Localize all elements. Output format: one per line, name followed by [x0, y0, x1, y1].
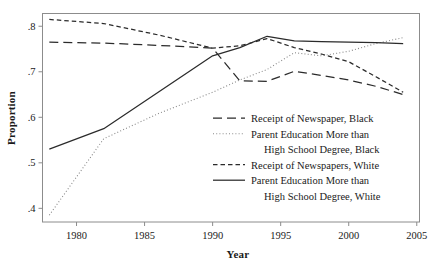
legend-label-continued: High School Degree, Black — [264, 144, 380, 155]
y-tick-label: .7 — [28, 66, 36, 77]
x-tick-label: 1985 — [134, 230, 155, 241]
chart-figure: .4.5.6.7.8 198019851990199520002005 Year… — [0, 0, 443, 270]
legend-label: Receipt of Newspapers, White — [251, 160, 379, 171]
legend-label: Receipt of Newspaper, Black — [251, 113, 374, 124]
y-tick-label: .8 — [28, 21, 36, 32]
chart-legend: Receipt of Newspaper, BlackParent Educat… — [213, 113, 381, 202]
legend-label: Parent Education More than — [251, 175, 370, 186]
y-tick-label: .6 — [28, 112, 36, 123]
series-line — [49, 19, 403, 92]
y-tick-label: .4 — [28, 203, 37, 214]
x-tick-label: 1990 — [202, 230, 223, 241]
x-axis-ticks: 198019851990199520002005 — [66, 222, 427, 241]
line-chart-svg: .4.5.6.7.8 198019851990199520002005 Year… — [0, 0, 443, 270]
x-tick-label: 1980 — [66, 230, 87, 241]
x-tick-label: 2000 — [338, 230, 359, 241]
y-axis-title: Proportion — [5, 91, 17, 145]
legend-label: Parent Education More than — [251, 129, 370, 140]
x-tick-label: 1995 — [270, 230, 291, 241]
series-line — [49, 42, 403, 94]
y-tick-label: .5 — [28, 157, 36, 168]
x-tick-label: 2005 — [406, 230, 427, 241]
legend-label-continued: High School Degree, White — [264, 191, 381, 202]
y-axis-ticks: .4.5.6.7.8 — [28, 21, 43, 214]
x-axis-title: Year — [227, 248, 250, 260]
